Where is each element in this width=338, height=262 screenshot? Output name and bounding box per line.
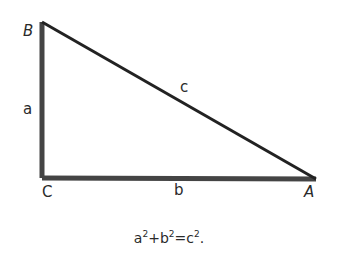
side-b-line — [42, 178, 316, 179]
eq-plus: + — [148, 230, 160, 246]
side-b-label: b — [174, 183, 184, 198]
vertex-c-label: C — [42, 185, 52, 200]
side-c-line — [42, 22, 316, 179]
eq-c: c — [186, 230, 194, 246]
eq-period: . — [200, 230, 204, 246]
side-a-label: a — [23, 102, 32, 117]
triangle-diagram — [0, 0, 338, 262]
vertex-a-label: A — [304, 185, 314, 200]
side-c-label: c — [180, 80, 188, 95]
vertex-b-label: B — [23, 24, 33, 39]
eq-equals: = — [175, 230, 187, 246]
pythagorean-equation: a2+b2=c2. — [0, 229, 338, 246]
eq-b: b — [160, 230, 169, 246]
